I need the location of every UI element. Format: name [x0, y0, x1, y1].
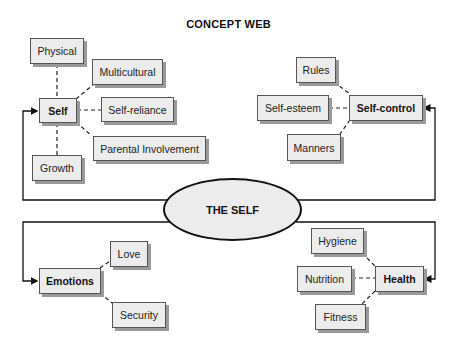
node-fitness: Fitness [315, 304, 366, 330]
node-emotions: Emotions [39, 268, 101, 294]
node-multicultural: Multicultural [92, 59, 163, 85]
node-self-esteem: Self-esteem [257, 95, 329, 121]
node-love: Love [110, 241, 148, 267]
node-physical: Physical [30, 38, 84, 64]
node-self-reliance: Self-reliance [101, 97, 174, 122]
node-health: Health [375, 266, 424, 292]
node-security: Security [112, 302, 166, 328]
diagram-title: CONCEPT WEB [0, 18, 457, 30]
node-growth: Growth [32, 155, 82, 181]
node-parental-involvement: Parental Involvement [93, 136, 206, 161]
node-self: Self [39, 98, 77, 123]
node-self-control: Self-control [349, 95, 423, 121]
node-rules: Rules [296, 57, 336, 83]
center-the-self: THE SELF [163, 178, 302, 241]
node-nutrition: Nutrition [297, 266, 352, 292]
node-manners: Manners [287, 134, 341, 161]
node-hygiene: Hygiene [311, 228, 364, 254]
